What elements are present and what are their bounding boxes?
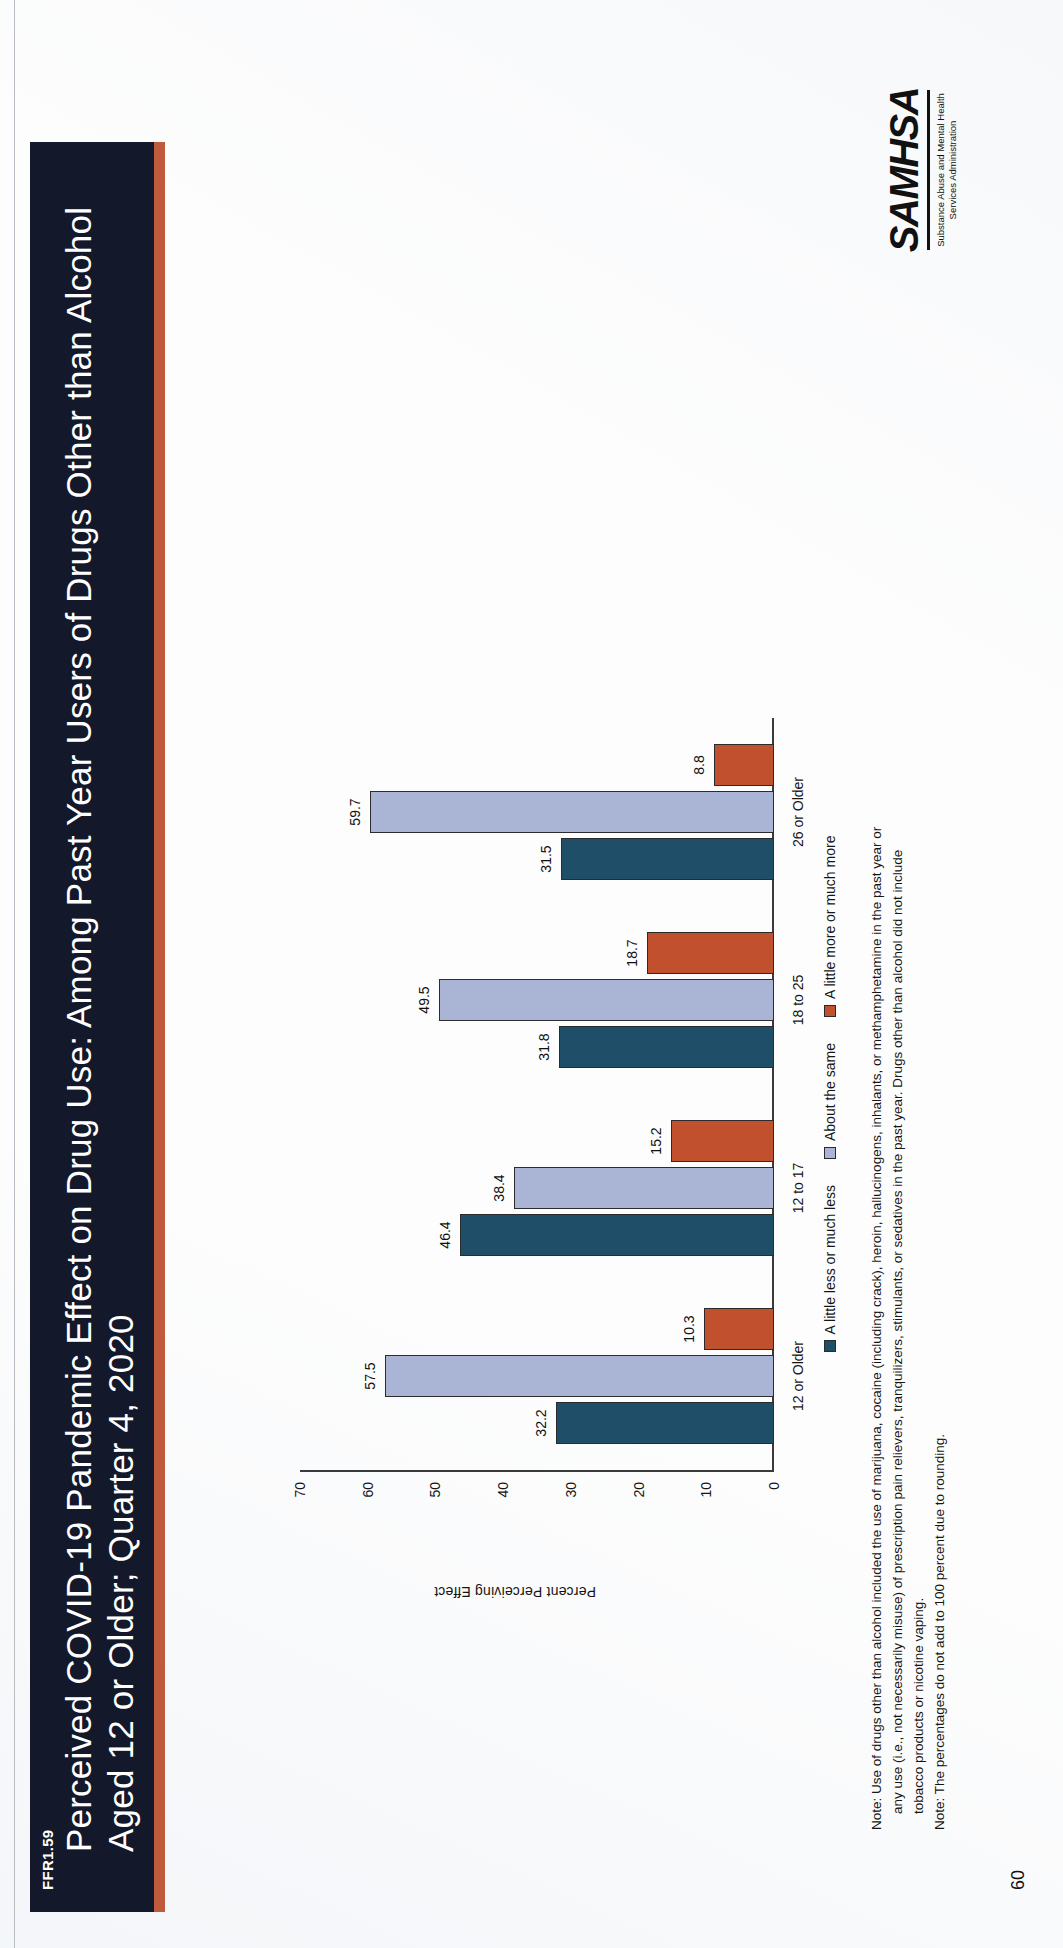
x-axis-category-labels: 12 or Older12 to 1718 to 2526 or Older [790, 718, 806, 1470]
footnote-line-4: Note: The percentages do not add to 100 … [930, 650, 949, 1830]
header-accent-bar [154, 142, 165, 1912]
y-axis-tick-40: 40 [495, 1482, 511, 1498]
legend-label: About the same [822, 1043, 838, 1141]
x-axis-category-label: 12 to 17 [790, 1094, 806, 1282]
samhsa-wordmark: SAMHSA [882, 88, 927, 252]
bar-value-label: 46.4 [437, 1221, 453, 1248]
bar[interactable]: 38.4 [514, 1167, 774, 1209]
y-axis-tick-20: 20 [631, 1482, 647, 1498]
samhsa-subtitle-line-2: Services Administration [947, 60, 959, 280]
bar-value-label: 31.8 [536, 1033, 552, 1060]
bar-value-label: 49.5 [416, 986, 432, 1013]
page-title: Perceived COVID-19 Pandemic Effect on Dr… [58, 192, 142, 1852]
bar[interactable]: 31.5 [561, 838, 774, 880]
y-axis-ticks: 010203040506070 [300, 1474, 774, 1528]
footnote-line-1: Note: Use of drugs other than alcohol in… [867, 650, 886, 1830]
bar[interactable]: 31.8 [559, 1026, 774, 1068]
bar-value-label: 57.5 [362, 1362, 378, 1389]
chart: Percent Perceiving Effect 01020304050607… [300, 718, 830, 1528]
figure-id-badge: FFR1.59 [39, 1830, 56, 1890]
bar-value-label: 31.5 [538, 845, 554, 872]
y-axis-tick-60: 60 [360, 1482, 376, 1498]
legend-item[interactable]: A little less or much less [822, 1185, 838, 1352]
slide: FFR1.59 Perceived COVID-19 Pandemic Effe… [0, 0, 1063, 1948]
x-axis-category-label: 18 to 25 [790, 906, 806, 1094]
bar[interactable]: 57.5 [385, 1355, 774, 1397]
y-axis-tick-30: 30 [563, 1482, 579, 1498]
bar[interactable]: 59.7 [370, 791, 774, 833]
bar[interactable]: 15.2 [671, 1120, 774, 1162]
legend-swatch [824, 1340, 836, 1352]
bar[interactable]: 18.7 [647, 932, 774, 974]
samhsa-subtitle-line-1: Substance Abuse and Mental Health [935, 60, 947, 280]
bar-value-label: 59.7 [347, 798, 363, 825]
bar-value-label: 10.3 [681, 1315, 697, 1342]
x-axis-category-label: 26 or Older [790, 718, 806, 906]
legend-item[interactable]: About the same [822, 1043, 838, 1159]
legend-item[interactable]: A little more or much more [822, 836, 838, 1017]
bar[interactable]: 10.3 [704, 1308, 774, 1350]
bar[interactable]: 46.4 [460, 1214, 774, 1256]
legend-label: A little less or much less [822, 1185, 838, 1334]
footnotes: Note: Use of drugs other than alcohol in… [867, 650, 951, 1830]
bar-value-label: 15.2 [648, 1127, 664, 1154]
y-axis-tick-10: 10 [698, 1482, 714, 1498]
bar[interactable]: 8.8 [714, 744, 774, 786]
samhsa-subtitle: Substance Abuse and Mental Health Servic… [935, 60, 959, 280]
legend-swatch [824, 1147, 836, 1159]
scan-top-rule [14, 0, 15, 1948]
bar[interactable]: 49.5 [439, 979, 774, 1021]
bar-group: 31.849.518.7 [300, 906, 774, 1094]
x-axis-category-label: 12 or Older [790, 1282, 806, 1470]
rotated-page-container: FFR1.59 Perceived COVID-19 Pandemic Effe… [0, 0, 1063, 1948]
bar-group: 32.257.510.3 [300, 1282, 774, 1470]
legend-swatch [824, 1005, 836, 1017]
y-axis-tick-50: 50 [427, 1482, 443, 1498]
bar[interactable]: 32.2 [556, 1402, 774, 1444]
legend-label: A little more or much more [822, 836, 838, 999]
bar-groups: 32.257.510.346.438.415.231.849.518.731.5… [300, 718, 774, 1470]
chart-legend: A little less or much lessAbout the same… [822, 718, 838, 1470]
y-axis-line [300, 1470, 774, 1472]
y-axis-tick-70: 70 [292, 1482, 308, 1498]
bar-group: 31.559.78.8 [300, 718, 774, 906]
page-number: 60 [1008, 1870, 1029, 1890]
bar-value-label: 32.2 [533, 1409, 549, 1436]
header-band: FFR1.59 Perceived COVID-19 Pandemic Effe… [30, 142, 154, 1912]
y-axis-tick-0: 0 [766, 1482, 782, 1490]
bar-group: 46.438.415.2 [300, 1094, 774, 1282]
footnote-line-3: tobacco products or nicotine vaping. [909, 650, 928, 1830]
y-axis-title: Percent Perceiving Effect [300, 1582, 730, 1600]
plot-area: 32.257.510.346.438.415.231.849.518.731.5… [300, 718, 774, 1470]
bar-value-label: 8.8 [691, 755, 707, 774]
samhsa-logo: SAMHSA Substance Abuse and Mental Health… [882, 60, 959, 280]
footnote-line-2: any use (i.e., not necessarily misuse) o… [888, 650, 907, 1830]
bar-value-label: 38.4 [491, 1174, 507, 1201]
bar-value-label: 18.7 [624, 939, 640, 966]
